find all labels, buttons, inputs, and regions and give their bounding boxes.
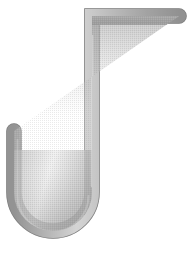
hook-illustration xyxy=(0,0,189,274)
hook-body xyxy=(0,0,189,274)
illustration-canvas xyxy=(0,0,189,274)
